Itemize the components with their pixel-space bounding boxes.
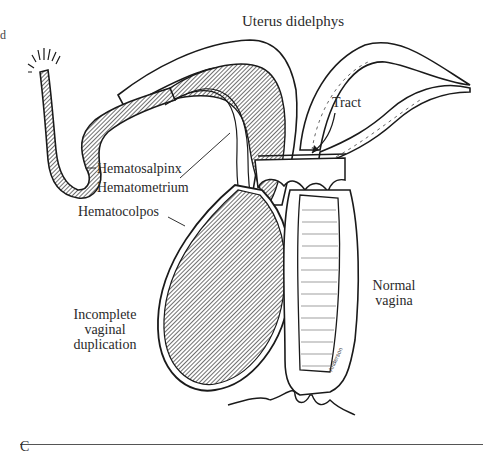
label-hematosalpinx: Hematosalpinx: [97, 161, 182, 176]
label-line: Normal: [368, 278, 420, 293]
label-line: vagina: [368, 293, 420, 308]
label-normal-vagina: Normal vagina: [368, 278, 420, 308]
panel-letter: C: [20, 439, 29, 455]
label-incomplete-vaginal-duplication: Incomplete vaginal duplication: [68, 307, 142, 352]
label-hematocolpos: Hematocolpos: [78, 204, 159, 219]
edge-fragment: d: [0, 28, 6, 43]
label-line: vaginal: [68, 322, 142, 337]
anatomical-illustration: Anderson: [0, 0, 493, 457]
label-line: duplication: [68, 337, 142, 352]
baseline-rule: [20, 444, 483, 445]
hematocolpos-sac: [158, 185, 291, 391]
right-uterine-horn: [300, 43, 470, 165]
label-hematometrium: Hematometrium: [97, 180, 189, 195]
label-line: Incomplete: [68, 307, 142, 322]
fimbriae: [28, 48, 60, 72]
figure-title: Uterus didelphys: [242, 14, 344, 29]
label-tract: Tract: [332, 95, 361, 110]
